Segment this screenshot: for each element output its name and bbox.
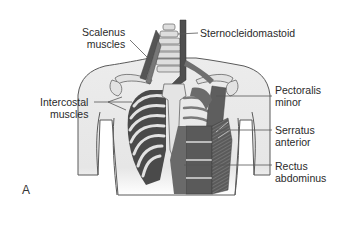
label-pectoralis-minor: Pectoralis minor [275, 84, 321, 108]
label-line: Rectus [275, 160, 326, 172]
label-line: muscles [40, 108, 88, 120]
label-line: muscles [82, 38, 125, 50]
panel-letter: A [22, 183, 30, 197]
label-sternocleidomastoid: Sternocleidomastoid [200, 27, 295, 39]
label-line: anterior [275, 136, 315, 148]
label-scalenus-muscles: Scalenus muscles [82, 26, 125, 50]
label-intercostal-muscles: Intercostal muscles [40, 96, 88, 120]
label-rectus-abdominus: Rectus abdominus [275, 160, 326, 184]
label-line: abdominus [275, 172, 326, 184]
label-line: Scalenus [82, 26, 125, 38]
label-line: minor [275, 96, 321, 108]
label-line: Sternocleidomastoid [200, 27, 295, 39]
label-line: Intercostal [40, 96, 88, 108]
label-serratus-anterior: Serratus anterior [275, 124, 315, 148]
rectus-abdominus-muscle [170, 126, 212, 194]
label-line: Serratus [275, 124, 315, 136]
label-line: Pectoralis [275, 84, 321, 96]
